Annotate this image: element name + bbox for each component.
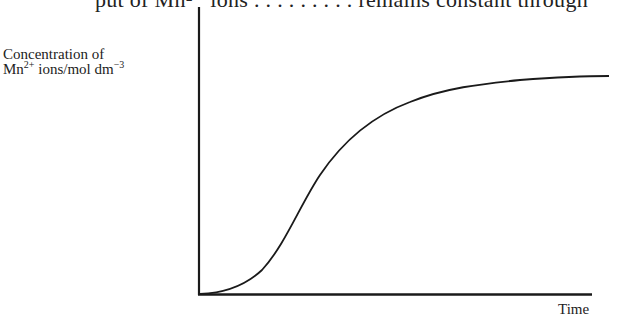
concentration-curve [200,76,609,294]
concentration-time-plot [0,0,622,317]
x-axis-label: Time [558,301,589,317]
